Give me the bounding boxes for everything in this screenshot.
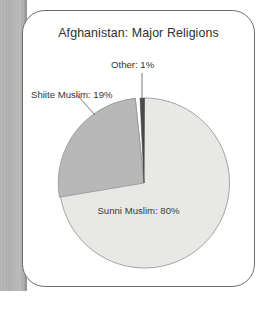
pie-label-sunni-muslim: Sunni Muslim: 80% [23, 205, 254, 216]
pie-label-shiite-muslim: Shiite Muslim: 19% [31, 89, 113, 100]
pie-chart [23, 11, 255, 287]
chart-card: Afghanistan: Major Religions Other: 1% S… [22, 10, 255, 287]
pie-slice-shiite-muslim[interactable] [58, 99, 144, 198]
pie-label-other: Other: 1% [111, 59, 154, 70]
